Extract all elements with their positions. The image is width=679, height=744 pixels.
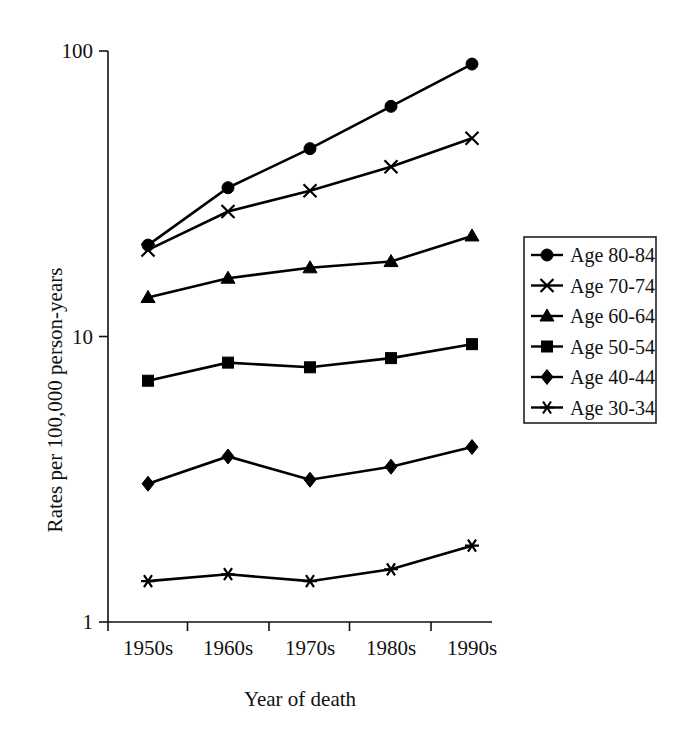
legend-item-label: Age 70-74: [570, 275, 655, 298]
legend-item-label: Age 80-84: [570, 244, 655, 267]
chart-figure: 110100 1950s1960s1970s1980s1990s Rates p…: [0, 0, 679, 744]
x-axis-title: Year of death: [244, 687, 357, 711]
y-axis-ticks: 110100: [62, 39, 109, 634]
line-chart: 110100 1950s1960s1970s1980s1990s Rates p…: [0, 0, 679, 744]
x-tick-label: 1950s: [123, 636, 173, 660]
legend: Age 80-84Age 70-74Age 60-64Age 50-54Age …: [524, 237, 656, 423]
legend-item-label: Age 60-64: [570, 305, 655, 328]
data-series: [141, 229, 479, 303]
x-tick-label: 1990s: [447, 636, 497, 660]
legend-item-label: Age 50-54: [570, 336, 655, 359]
x-axis-ticks: 1950s1960s1970s1980s1990s: [108, 622, 497, 660]
y-tick-label: 100: [62, 39, 94, 63]
data-series-group: [141, 58, 479, 587]
y-axis-title: Rates per 100,000 person-years: [43, 268, 67, 533]
axes: [108, 51, 492, 622]
legend-item-label: Age 40-44: [570, 366, 655, 389]
x-tick-label: 1970s: [285, 636, 335, 660]
data-series: [143, 339, 478, 387]
data-series: [141, 540, 479, 587]
x-tick-label: 1960s: [203, 636, 253, 660]
x-tick-label: 1980s: [366, 636, 416, 660]
data-series: [142, 440, 478, 492]
y-tick-label: 10: [72, 325, 93, 349]
legend-item-label: Age 30-34: [570, 397, 655, 420]
y-tick-label: 1: [83, 610, 94, 634]
